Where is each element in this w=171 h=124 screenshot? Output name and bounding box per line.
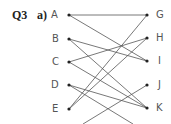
node-dot-j	[145, 83, 148, 86]
node-label-e: E	[52, 103, 58, 115]
matching-diagram	[0, 0, 171, 124]
node-label-i: I	[158, 55, 161, 67]
node-label-j: J	[158, 79, 161, 91]
node-dot-g	[145, 13, 148, 16]
node-dot-i	[145, 59, 148, 62]
edge-c-k	[69, 62, 147, 108]
edge-a-i	[69, 15, 147, 61]
edge-e-g	[69, 15, 147, 109]
edge-d-offscreen	[69, 85, 133, 124]
node-label-k: K	[156, 102, 163, 114]
node-label-g: G	[156, 9, 164, 21]
edge-e-h	[69, 38, 147, 109]
edge-d-k	[69, 85, 147, 108]
edge-j-offscreen	[83, 85, 147, 124]
node-dot-k	[145, 106, 148, 109]
node-dot-e	[67, 107, 70, 110]
node-dot-c	[67, 60, 70, 63]
node-dot-a	[67, 13, 70, 16]
node-label-c: C	[52, 56, 59, 68]
node-dot-b	[67, 37, 70, 40]
node-dot-d	[67, 83, 70, 86]
node-label-b: B	[52, 33, 59, 45]
edge-c-h	[69, 38, 147, 62]
node-dot-h	[145, 36, 148, 39]
node-label-a: A	[51, 9, 58, 21]
node-label-d: D	[51, 79, 59, 91]
node-label-h: H	[156, 32, 164, 44]
